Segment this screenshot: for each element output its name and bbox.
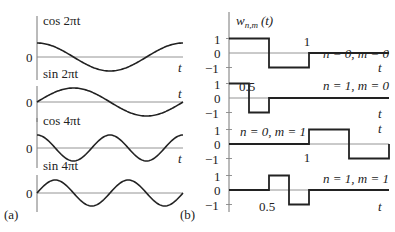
wavelet-caption: n = 0, m = 1 — [240, 124, 306, 139]
zero-tick-label: 0 — [26, 141, 33, 156]
zero-tick-label: 0 — [26, 95, 33, 110]
zero-tick-label: 0 — [26, 50, 33, 65]
plot-title: sin 2πt — [43, 66, 78, 81]
t-axis-label: t — [178, 86, 182, 101]
t-axis-label: t — [378, 60, 382, 75]
sinusoid-plot-2: sin 2πt0t — [26, 66, 183, 116]
plot-title: cos 4πt — [43, 113, 81, 128]
tick-label-neg1: −1 — [205, 106, 219, 121]
tick-label-neg1: −1 — [205, 198, 219, 213]
sinusoid-plot-4: sin 4πt0 — [26, 158, 183, 206]
x-annotation: 1 — [304, 34, 311, 49]
t-axis-label: t — [178, 60, 182, 75]
tick-label-0: 0 — [214, 46, 221, 61]
tick-label-1: 1 — [214, 32, 221, 47]
x-annotation: 1 — [304, 150, 311, 165]
panel-b: wn,m(t)10−1n = 0, m = 01t10−1n = 1, m = … — [180, 12, 389, 222]
panel-label-a: (a) — [4, 207, 18, 222]
tick-label-0: 0 — [214, 91, 221, 106]
t-axis-label: t — [378, 121, 382, 136]
tick-label-0: 0 — [214, 137, 221, 152]
plot-title: cos 2πt — [43, 13, 81, 28]
t-axis-label: t — [178, 151, 182, 166]
wavelet-plot-2: 10−1n = 1, m = 00.5t — [205, 77, 389, 122]
plot-title: sin 4πt — [43, 158, 78, 173]
x-annotation: 0.5 — [239, 79, 255, 94]
tick-label-neg1: −1 — [205, 61, 219, 76]
panel-a: cos 2πt0tsin 2πt0tcos 4πt0tsin 4πt0(a) — [4, 13, 183, 222]
zero-tick-label: 0 — [26, 186, 33, 201]
wavelet-plot-1: 10−1n = 0, m = 01t — [205, 32, 389, 76]
tick-label-neg1: −1 — [205, 152, 219, 167]
x-annotation: 0.5 — [259, 199, 275, 214]
tick-label-1: 1 — [214, 123, 221, 138]
wavelet-title: wn,m(t) — [236, 13, 273, 30]
t-axis-label: t — [378, 199, 382, 214]
tick-label-1: 1 — [214, 77, 221, 92]
wavelet-caption: n = 1, m = 1 — [323, 171, 389, 186]
tick-label-0: 0 — [214, 183, 221, 198]
wavelet-plot-3: 10−1n = 0, m = 11t — [205, 121, 389, 167]
figure-canvas: cos 2πt0tsin 2πt0tcos 4πt0tsin 4πt0(a)wn… — [0, 0, 395, 232]
wavelet-caption: n = 1, m = 0 — [323, 78, 389, 93]
wavelet-plot-4: 10−1n = 1, m = 10.5t — [205, 169, 389, 215]
panel-label-b: (b) — [180, 207, 195, 222]
tick-label-1: 1 — [214, 169, 221, 184]
wavelet-caption: n = 0, m = 0 — [323, 46, 389, 61]
figure: cos 2πt0tsin 2πt0tcos 4πt0tsin 4πt0(a)wn… — [0, 0, 395, 232]
t-axis-label: t — [378, 106, 382, 121]
